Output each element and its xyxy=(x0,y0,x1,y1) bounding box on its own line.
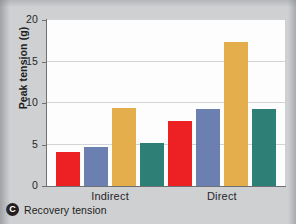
figure-panel: 05101520 Peak tension (g) IndirectDirect… xyxy=(0,0,296,224)
y-tick-mark xyxy=(42,103,46,104)
y-tick-label: 0 xyxy=(0,179,38,191)
y-tick-mark xyxy=(42,145,46,146)
bar xyxy=(112,108,136,186)
gridline xyxy=(47,61,285,62)
y-axis-line xyxy=(46,19,47,187)
bar xyxy=(84,147,108,186)
y-tick-mark xyxy=(42,62,46,63)
panel-letter-badge: C xyxy=(6,203,19,216)
panel-caption-text: Recovery tension xyxy=(24,204,107,216)
bar xyxy=(252,109,276,186)
x-tick-label: Indirect xyxy=(70,190,150,202)
bar xyxy=(56,152,80,186)
gridline xyxy=(47,102,285,103)
bar xyxy=(224,42,248,186)
gridline xyxy=(47,144,285,145)
y-tick-mark xyxy=(42,20,46,21)
plot-area xyxy=(47,20,285,186)
gridline xyxy=(47,19,285,20)
x-tick-label: Direct xyxy=(182,190,262,202)
bar xyxy=(168,121,192,186)
bar xyxy=(140,143,164,186)
y-axis-label: Peak tension (g) xyxy=(17,9,29,127)
y-tick-mark xyxy=(42,186,46,187)
y-tick-label: 5 xyxy=(0,138,38,150)
bar xyxy=(196,109,220,186)
x-axis-line xyxy=(46,186,286,187)
panel-caption: C Recovery tension xyxy=(6,203,107,216)
